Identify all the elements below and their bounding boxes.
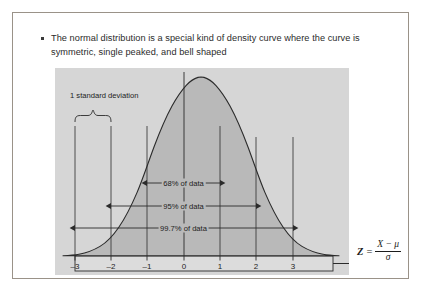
tick-label-plus2: 2 bbox=[254, 262, 258, 271]
label-68-percent: 68% of data bbox=[161, 179, 206, 188]
label-997-percent: 99.7% of data bbox=[158, 224, 209, 233]
z-score-formula: Z = X − μ σ bbox=[357, 240, 401, 263]
slide: The normal distribution is a special kin… bbox=[0, 0, 423, 291]
slide-frame: The normal distribution is a special kin… bbox=[12, 12, 409, 279]
formula-variable: Z bbox=[357, 246, 363, 257]
tick-label-minus1: –1 bbox=[143, 262, 152, 271]
bullet-marker bbox=[41, 37, 44, 40]
formula-fraction: X − μ σ bbox=[375, 240, 401, 263]
standard-deviation-brace bbox=[75, 110, 111, 122]
tick-label-plus3: 3 bbox=[291, 262, 295, 271]
normal-distribution-figure: 1 standard deviation 68% of data 95% of … bbox=[55, 68, 349, 275]
tick-label-minus3: –3 bbox=[71, 262, 80, 271]
tick-label-minus2: –2 bbox=[107, 262, 116, 271]
formula-denominator: σ bbox=[386, 252, 391, 263]
bullet-point: The normal distribution is a special kin… bbox=[41, 32, 371, 59]
formula-numerator: X − μ bbox=[375, 240, 401, 252]
tick-label-zero: 0 bbox=[182, 262, 186, 271]
tick-label-plus1: 1 bbox=[218, 262, 222, 271]
formula-equals: = bbox=[366, 246, 372, 257]
label-95-percent: 95% of data bbox=[161, 202, 206, 211]
standard-deviation-label: 1 standard deviation bbox=[70, 91, 138, 102]
bullet-text: The normal distribution is a special kin… bbox=[51, 32, 371, 59]
